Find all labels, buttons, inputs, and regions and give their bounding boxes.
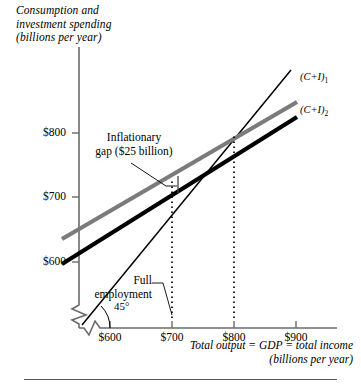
angle-label-45: 45° [114,300,129,312]
x-axis-title-line-2: (billions per year) [103,352,353,366]
inflationary-gap-figure: Consumption and investment spending (bil… [0,0,361,387]
curve-label-c-plus-i-1-sub: 1 [325,76,329,85]
curve-c-plus-i-1 [62,102,297,239]
y-tick-label-800: $800 [18,126,66,138]
x-axis-title-line-1: Total output = GDP = total income [103,338,353,352]
annotation-full-employment-line-1: Full [42,274,152,288]
annotation-inflationary-gap-line-1: Inflationary [79,131,189,145]
curve-label-c-plus-i-1: (C+I)1 [300,71,328,85]
x-axis-title: Total output = GDP = total income (billi… [103,338,353,366]
annotation-full-employment-line-2: employment [42,288,152,302]
footer-divider [24,379,337,380]
y-tick-label-700: $700 [18,190,66,202]
y-tick-label-600: $600 [18,255,66,267]
curve-label-c-plus-i-2-base: (C+I) [300,104,325,115]
full-employment-leader-line [152,283,172,315]
annotation-inflationary-gap-line-2: gap ($25 billion) [79,145,189,159]
curve-label-c-plus-i-2-sub: 2 [325,109,329,118]
curve-label-c-plus-i-1-base: (C+I) [300,71,325,82]
annotation-inflationary-gap: Inflationary gap ($25 billion) [79,131,189,158]
angle-arc-45 [101,306,110,328]
curve-label-c-plus-i-2: (C+I)2 [300,104,328,118]
annotation-full-employment: Full employment [42,274,152,301]
